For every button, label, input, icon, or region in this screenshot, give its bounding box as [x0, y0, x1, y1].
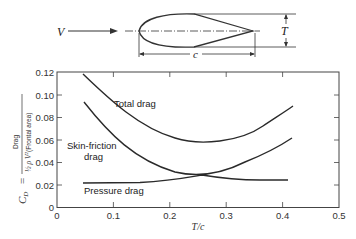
- total-drag-label: Total drag: [114, 98, 156, 109]
- thickness-label: T: [281, 24, 289, 38]
- chord-label: c: [193, 48, 198, 60]
- drag-vs-thickness-figure: V T c: [0, 0, 356, 239]
- y-tick-label: 0.12: [36, 67, 55, 78]
- x-tick-label: 0.2: [163, 210, 176, 221]
- arrowhead-icon: [110, 28, 118, 34]
- y-axis-denominator: ½ ρ V2(Frontal area): [24, 113, 33, 172]
- pressure-drag-curve: [83, 175, 288, 183]
- y-axis-equals: =: [16, 178, 28, 184]
- y-tick-label: 0.02: [36, 180, 55, 191]
- arrow-right-icon: [250, 52, 255, 56]
- velocity-label: V: [57, 25, 66, 39]
- x-tick-label: 0.4: [276, 210, 289, 221]
- x-axis-label: T/c: [192, 221, 205, 232]
- airfoil-shape: [139, 14, 253, 47]
- y-tick-label: 0.06: [36, 135, 55, 146]
- y-tick-label: 0: [49, 202, 54, 213]
- curves: [83, 74, 293, 183]
- x-tick-label: 0.3: [220, 210, 233, 221]
- y-axis-symbol: CD: [16, 192, 30, 204]
- x-tick-label: 0.1: [107, 210, 120, 221]
- curve-labels: Total drag Skin-friction drag Pressure d…: [67, 98, 156, 196]
- y-axis-numerator: Drag: [12, 135, 20, 149]
- arrow-up-icon: [284, 14, 288, 19]
- arrow-left-icon: [139, 52, 144, 56]
- y-tick-label: 0.04: [36, 157, 55, 168]
- y-tick-label: 0.08: [36, 112, 55, 123]
- airfoil-diagram: V T c: [57, 14, 296, 60]
- x-tick-label: 0.5: [332, 210, 345, 221]
- y-axis-label: CD = Drag ½ ρ V2(Frontal area): [12, 94, 33, 204]
- skin-friction-label-line1: Skin-friction: [67, 140, 117, 151]
- x-tick-label: 0: [54, 210, 59, 221]
- drag-chart: 0 0.02 0.04 0.06 0.08 0.10 0.12 0 0.1 0.…: [12, 67, 346, 232]
- pressure-drag-label: Pressure drag: [84, 185, 144, 196]
- y-tick-label: 0.10: [36, 90, 55, 101]
- y-tick-labels: 0 0.02 0.04 0.06 0.08 0.10 0.12: [36, 67, 55, 213]
- skin-friction-label-line2: drag: [84, 151, 103, 162]
- x-tick-labels: 0 0.1 0.2 0.3 0.4 0.5: [54, 210, 345, 221]
- arrow-down-icon: [284, 42, 288, 47]
- skin-friction-drag-curve: [84, 102, 292, 174]
